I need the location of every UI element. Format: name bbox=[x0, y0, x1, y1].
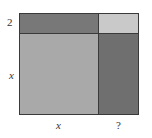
top-left-region bbox=[19, 13, 99, 34]
bottom-left-region bbox=[19, 33, 99, 115]
label-height-2: 2 bbox=[7, 17, 13, 28]
top-right-region bbox=[98, 13, 139, 34]
label-width-x: x bbox=[56, 120, 61, 131]
label-height-x: x bbox=[9, 70, 14, 81]
area-model-diagram: 2 x x ? bbox=[0, 0, 152, 138]
label-width-unknown: ? bbox=[116, 120, 121, 131]
bottom-right-region bbox=[98, 33, 139, 115]
